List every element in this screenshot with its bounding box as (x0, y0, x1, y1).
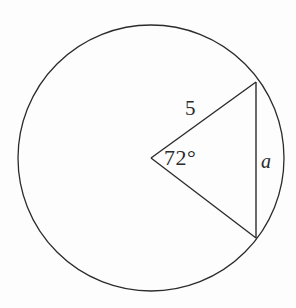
central-angle-label: 72° (164, 147, 196, 169)
radius-lower-line (151, 158, 256, 238)
radius-length-label: 5 (185, 98, 196, 119)
geometry-canvas (0, 0, 296, 308)
chord-length-label: a (261, 151, 271, 171)
geometry-figure: 5 72° a (0, 0, 296, 308)
